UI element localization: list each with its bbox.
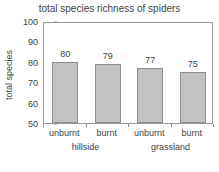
x-axis-tick-label: burnt bbox=[96, 128, 117, 139]
bar-slot: 77 bbox=[129, 23, 172, 123]
bar-chart: total species richness of spiders total … bbox=[0, 0, 219, 172]
y-axis-tick-label: 50 bbox=[28, 120, 38, 129]
bar[interactable] bbox=[95, 64, 121, 123]
x-axis-tick-mark bbox=[128, 124, 129, 127]
x-axis-tick-labels: unburntburntunburntburnt bbox=[43, 128, 213, 141]
x-axis-group-labels: hillsidegrassland bbox=[43, 142, 213, 155]
chart-title: total species richness of spiders bbox=[0, 3, 219, 15]
y-axis-title: total species bbox=[4, 50, 14, 100]
y-axis-tick-label: 90 bbox=[28, 38, 38, 47]
x-axis-tick-mark bbox=[43, 124, 44, 127]
x-axis-tick-label: unburnt bbox=[49, 128, 80, 139]
bar-slot: 75 bbox=[172, 23, 215, 123]
x-axis-tick-mark bbox=[213, 124, 214, 127]
bar-value-label: 77 bbox=[145, 56, 155, 65]
y-axis-tick-label: 100 bbox=[23, 18, 38, 27]
y-axis-tick-labels: 1009080706050 bbox=[14, 18, 40, 124]
bar-slot: 79 bbox=[87, 23, 130, 123]
y-axis-tick-label: 70 bbox=[28, 79, 38, 88]
x-axis-tick-label: unburnt bbox=[134, 128, 165, 139]
bar[interactable] bbox=[137, 68, 163, 123]
plot-area: 80797775 bbox=[43, 22, 213, 124]
x-axis-tick-mark bbox=[86, 124, 87, 127]
x-axis-group-label: hillside bbox=[72, 142, 100, 153]
bar-value-label: 79 bbox=[103, 52, 113, 61]
bar[interactable] bbox=[180, 72, 206, 123]
y-axis-tick-label: 80 bbox=[28, 58, 38, 67]
bar-value-label: 80 bbox=[60, 50, 70, 59]
x-axis-group-label: grassland bbox=[151, 142, 190, 153]
bars-layer: 80797775 bbox=[44, 23, 212, 123]
x-axis-tick-label: burnt bbox=[181, 128, 202, 139]
bar[interactable] bbox=[52, 62, 78, 123]
bar-value-label: 75 bbox=[188, 60, 198, 69]
x-axis-tick-mark bbox=[171, 124, 172, 127]
bar-slot: 80 bbox=[44, 23, 87, 123]
y-axis-tick-label: 60 bbox=[28, 99, 38, 108]
